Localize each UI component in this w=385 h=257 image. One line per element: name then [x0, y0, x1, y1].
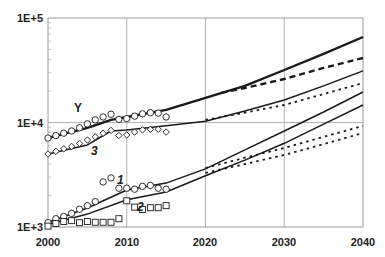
- marker-diamond: [100, 130, 106, 136]
- marker-circle: [100, 114, 106, 120]
- marker-square: [116, 216, 122, 222]
- marker-circle: [139, 111, 145, 117]
- x-tick-label-2020: 2020: [193, 236, 217, 248]
- marker-circle: [108, 175, 114, 181]
- marker-square: [77, 220, 83, 226]
- marker-circle: [84, 121, 90, 127]
- marker-square: [163, 203, 169, 209]
- marker-circle: [92, 117, 98, 123]
- marker-circle: [155, 110, 161, 116]
- marker-circle: [92, 198, 98, 204]
- chart: 1E+5 1E+4 1E+3 2000 2010 2020 2030 2040 …: [0, 0, 385, 257]
- marker-square: [155, 205, 161, 211]
- x-tick-label-2040: 2040: [351, 236, 375, 248]
- marker-circle: [139, 183, 145, 189]
- marker-circle: [45, 135, 51, 141]
- marker-circle: [100, 179, 106, 185]
- marker-circle: [124, 115, 130, 121]
- marker-square: [108, 219, 114, 225]
- curve-label-2: 2: [136, 200, 144, 214]
- marker-square: [147, 205, 153, 211]
- marker-square: [100, 219, 106, 225]
- marker-circle: [76, 125, 82, 131]
- marker-circle: [131, 113, 137, 119]
- marker-circle: [108, 111, 114, 117]
- marker-circle: [147, 110, 153, 116]
- marker-circle: [61, 130, 67, 136]
- curve-label-3: 3: [91, 144, 98, 158]
- marker-circle: [68, 210, 74, 216]
- marker-square: [61, 218, 67, 224]
- marker-circle: [147, 182, 153, 188]
- y-tick-label-1e5: 1E+5: [17, 12, 43, 24]
- marker-circle: [163, 186, 169, 192]
- x-tick-label-2030: 2030: [272, 236, 296, 248]
- marker-diamond: [124, 132, 130, 138]
- x-tick-label-2010: 2010: [115, 236, 139, 248]
- marker-circle: [68, 128, 74, 134]
- curve-label-y: Y: [74, 101, 82, 115]
- markers-layer: [45, 110, 170, 230]
- marker-diamond: [45, 151, 51, 157]
- marker-square: [92, 219, 98, 225]
- marker-circle: [116, 116, 122, 122]
- marker-circle: [131, 186, 137, 192]
- marker-square: [45, 223, 51, 229]
- series-line-y-alt-scenario-: [221, 58, 363, 93]
- marker-diamond: [163, 129, 169, 135]
- marker-diamond: [84, 137, 90, 143]
- marker-diamond: [116, 132, 122, 138]
- y-tick-label-1e3: 1E+3: [17, 221, 43, 233]
- curve-label-1: 1: [117, 173, 124, 187]
- marker-circle: [53, 132, 59, 138]
- marker-circle: [84, 202, 90, 208]
- marker-circle: [124, 185, 130, 191]
- marker-square: [84, 218, 90, 224]
- marker-circle: [163, 114, 169, 120]
- marker-circle: [76, 206, 82, 212]
- x-tick-label-2000: 2000: [36, 236, 60, 248]
- marker-square: [124, 198, 130, 204]
- marker-circle: [155, 185, 161, 191]
- marker-square: [69, 218, 75, 224]
- y-tick-label-1e4: 1E+4: [17, 117, 44, 129]
- marker-diamond: [53, 148, 59, 154]
- marker-square: [53, 221, 59, 227]
